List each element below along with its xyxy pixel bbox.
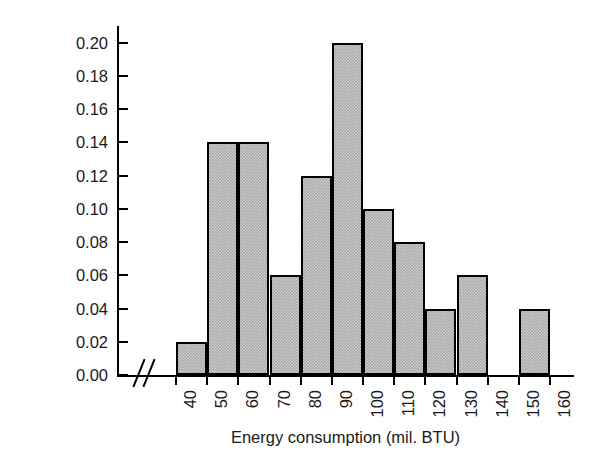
y-tick-mark [119, 141, 128, 143]
x-tick-mark [331, 377, 333, 385]
y-tick-mark [119, 308, 128, 310]
x-tick-label-text: 50 [213, 390, 230, 408]
x-tick-label-text: 130 [463, 390, 480, 418]
x-tick-label-text: 100 [369, 390, 386, 418]
x-tick-label: 40 [182, 389, 199, 407]
y-tick-label: 0.06 [46, 267, 108, 284]
x-tick-label-text: 140 [494, 390, 511, 418]
x-tick-label-text: 80 [307, 390, 324, 408]
x-tick-label: 90 [338, 389, 355, 407]
x-tick-label-text: 150 [525, 390, 542, 418]
x-tick-label-text: 120 [431, 390, 448, 418]
x-axis-title: Energy consumption (mil. BTU) [117, 428, 574, 447]
histogram-bar [363, 209, 394, 375]
x-tick-label: 120 [431, 389, 448, 417]
x-tick-label-text: 110 [400, 390, 417, 416]
x-tick-mark [269, 377, 271, 385]
x-tick-label-text: 60 [244, 390, 261, 408]
x-tick-label: 60 [244, 389, 261, 407]
x-tick-mark [424, 377, 426, 385]
x-tick-label: 70 [276, 389, 293, 407]
y-tick-label: 0.18 [46, 68, 108, 85]
histogram-bar [519, 309, 550, 375]
x-tick-label-text: 90 [338, 390, 355, 408]
histogram-bar [332, 43, 363, 375]
x-tick-label: 80 [307, 389, 324, 407]
x-tick-label: 50 [213, 389, 230, 407]
plot-area [176, 26, 550, 375]
histogram-figure: Relative frequency 0.000.020.040.060.080… [0, 0, 597, 462]
x-tick-label-text: 160 [556, 390, 573, 418]
x-tick-mark [487, 377, 489, 385]
y-tick-label: 0.02 [46, 334, 108, 351]
histogram-bar [457, 275, 488, 375]
x-tick-label: 100 [369, 389, 386, 417]
y-tick-mark [119, 42, 128, 44]
histogram-bar [238, 142, 269, 375]
histogram-bar [394, 242, 425, 375]
x-tick-label: 110 [400, 389, 417, 415]
y-tick-mark [119, 75, 128, 77]
histogram-bar [207, 142, 238, 375]
x-tick-mark [206, 377, 208, 385]
x-tick-mark [549, 377, 551, 385]
x-tick-mark [393, 377, 395, 385]
x-tick-mark [300, 377, 302, 385]
y-axis-line [117, 26, 119, 377]
x-tick-group: 405060708090100110120130140150160 [176, 377, 550, 462]
y-tick-mark [119, 274, 128, 276]
x-tick-mark [362, 377, 364, 385]
y-tick-mark [119, 241, 128, 243]
x-tick-label: 160 [556, 389, 573, 417]
y-tick-label: 0.20 [46, 34, 108, 51]
y-tick-label: 0.10 [46, 201, 108, 218]
y-axis-title: Relative frequency [0, 0, 40, 462]
x-tick-mark [237, 377, 239, 385]
histogram-bar [176, 342, 207, 375]
x-tick-label: 140 [494, 389, 511, 417]
x-tick-mark [456, 377, 458, 385]
x-tick-mark [518, 377, 520, 385]
y-tick-mark [119, 341, 128, 343]
y-tick-label: 0.12 [46, 167, 108, 184]
y-tick-label: 0.08 [46, 234, 108, 251]
histogram-bar [425, 309, 456, 375]
y-tick-mark [119, 175, 128, 177]
y-tick-label-group: 0.000.020.040.060.080.100.120.140.160.18… [46, 0, 108, 462]
y-tick-mark [119, 108, 128, 110]
y-tick-label: 0.00 [46, 367, 108, 384]
y-tick-mark [119, 374, 128, 376]
y-tick-mark [119, 208, 128, 210]
x-tick-label: 150 [525, 389, 542, 417]
x-tick-mark [175, 377, 177, 385]
histogram-bar [301, 176, 332, 375]
y-tick-label: 0.14 [46, 134, 108, 151]
y-tick-label: 0.04 [46, 300, 108, 317]
x-tick-label-text: 70 [276, 390, 293, 408]
histogram-bar [270, 275, 301, 375]
y-tick-label: 0.16 [46, 101, 108, 118]
axis-break-slash-2 [142, 359, 155, 388]
axis-break-icon [130, 358, 164, 392]
x-tick-label-text: 40 [182, 390, 199, 408]
x-tick-label: 130 [463, 389, 480, 417]
